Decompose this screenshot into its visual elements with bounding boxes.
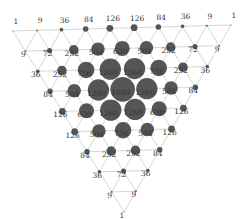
coefficient-node [107, 25, 114, 32]
coefficient-label: 36 [141, 169, 151, 178]
coefficient-label: 252 [126, 149, 141, 158]
coefficient-node [131, 24, 138, 31]
coefficient-label: 36 [93, 171, 103, 180]
coefficient-label: 756 [150, 67, 165, 76]
coefficient-label: 630 [113, 47, 128, 56]
coefficient-label: 84 [189, 86, 199, 95]
coefficient-label: 9 [215, 45, 220, 54]
coefficient-node [156, 24, 161, 29]
grid-edge [195, 26, 207, 47]
coefficient-label: 252 [162, 46, 177, 55]
coefficient-label: 1 [14, 17, 19, 26]
coefficient-label: 126 [53, 110, 68, 119]
grid-edge [134, 27, 158, 28]
grid-edge [61, 29, 85, 30]
grid-edge [112, 192, 124, 212]
grid-edge [25, 30, 37, 51]
coefficient-label: 252 [65, 49, 80, 58]
grid-edge [86, 28, 110, 29]
coefficient-label: 84 [157, 13, 167, 22]
coefficient-label: 252 [102, 150, 117, 159]
coefficient-label: 1260 [99, 68, 118, 77]
coefficient-label: 36 [60, 16, 70, 25]
coefficient-label: 126 [162, 128, 177, 137]
coefficient-label: 84 [80, 151, 90, 160]
diagram-canvas: 1936841261268436919722525046305042527293… [0, 0, 242, 219]
coefficient-label: 1260 [135, 88, 154, 97]
coefficient-node [60, 28, 64, 32]
coefficient-label: 756 [77, 69, 92, 78]
grid-edge [50, 30, 62, 51]
coefficient-node [83, 26, 88, 31]
coefficient-label: 9 [207, 12, 212, 21]
grid-edge [25, 51, 37, 71]
coefficient-label: 9 [131, 190, 136, 199]
grid-edge [207, 25, 231, 26]
coefficient-label: 1260 [123, 108, 142, 117]
coefficient-label: 9 [107, 191, 112, 200]
coefficient-label: 72 [188, 45, 198, 54]
coefficient-label: 252 [53, 70, 68, 79]
coefficient-label: 84 [84, 15, 94, 24]
coefficient-label: 126 [130, 14, 145, 23]
coefficient-label: 9 [21, 50, 26, 59]
coefficient-node [206, 25, 208, 27]
coefficient-label: 84 [43, 90, 53, 99]
coefficient-label: 504 [90, 130, 105, 139]
grid-edge [183, 26, 195, 46]
coefficient-label: 1 [232, 11, 237, 20]
coefficient-label: 9 [38, 16, 43, 25]
grid-edge [13, 31, 25, 51]
coefficient-label: 126 [106, 14, 121, 23]
coefficient-label: 504 [89, 48, 104, 57]
coefficient-label: 1680 [111, 88, 130, 97]
coefficient-label: 36 [181, 12, 191, 21]
grid-edge [110, 28, 134, 29]
grid-edge [37, 30, 49, 50]
coefficient-node [230, 24, 231, 25]
trinomial-triangle-diagram: 1936841261268436919722525046305042527293… [0, 0, 242, 219]
coefficient-label: 1 [120, 211, 125, 219]
coefficient-label: 504 [162, 87, 177, 96]
coefficient-label: 1260 [123, 68, 142, 77]
grid-edge [158, 26, 182, 27]
coefficient-node [181, 25, 185, 29]
coefficient-label: 630 [150, 108, 165, 117]
grid-edge [207, 26, 219, 46]
coefficient-label: 72 [117, 170, 127, 179]
coefficient-label: 72 [43, 49, 53, 58]
coefficient-node [36, 29, 38, 31]
coefficient-label: 630 [77, 110, 92, 119]
coefficient-label: 84 [153, 149, 163, 158]
grid-edge [37, 30, 61, 31]
coefficient-label: 1260 [87, 89, 106, 98]
grid-edge [183, 26, 207, 27]
coefficient-label: 36 [31, 70, 41, 79]
coefficient-label: 504 [65, 90, 80, 99]
coefficient-label: 756 [114, 129, 129, 138]
coefficient-label: 504 [138, 129, 153, 138]
grid-edge [219, 25, 231, 46]
coefficient-label: 504 [137, 47, 152, 56]
coefficient-label: 1260 [99, 109, 118, 118]
coefficient-label: 36 [200, 66, 210, 75]
coefficient-node [12, 30, 13, 31]
coefficient-label: 126 [174, 107, 189, 116]
coefficient-label: 126 [66, 131, 81, 140]
coefficient-label: 252 [174, 66, 189, 75]
grid-edge [13, 30, 37, 31]
